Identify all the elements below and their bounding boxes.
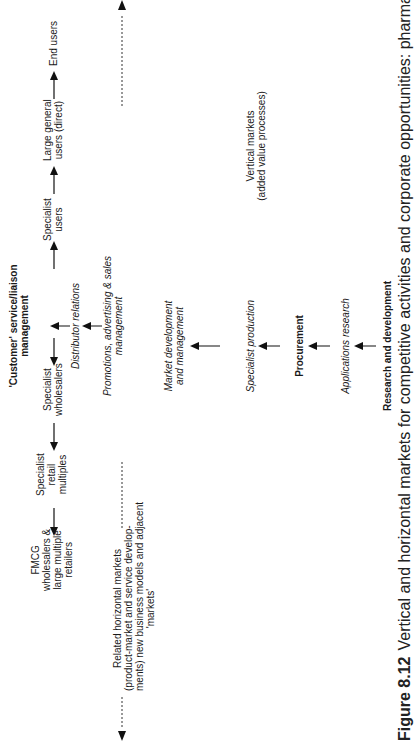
arrow-up-icon	[190, 340, 220, 352]
node-line: users (direct)	[53, 99, 64, 161]
node-line: retail	[46, 453, 57, 496]
node-fmcg-line: wholesalers &	[41, 529, 52, 591]
horizontal-markets-label: Related horizontal markets (product-mark…	[112, 526, 156, 691]
arrow-up-icon	[258, 340, 280, 352]
arrow-up-icon	[82, 320, 102, 332]
specialist-production: Specialist production	[245, 291, 256, 401]
node-line: Specialist	[42, 198, 53, 241]
node-end-users: End users	[48, 21, 59, 66]
arrow-up-icon	[354, 340, 376, 352]
node-fmcg-line: FMCG	[30, 529, 41, 591]
label-line: 'markets'	[145, 526, 156, 691]
arrow-right-icon	[48, 241, 60, 271]
node-large-general-users: Large general users (direct)	[42, 99, 64, 161]
node-line: Specialist	[35, 453, 46, 496]
arrow-right-icon	[48, 166, 60, 196]
figure-caption-text: Vertical and horizontal markets for comp…	[396, 0, 413, 651]
node-line: wholesalers	[53, 363, 64, 416]
procurement: Procurement	[294, 291, 305, 401]
arrow-left-icon	[48, 421, 60, 451]
node-line: Promotions, advertising & sales	[102, 251, 113, 401]
figure-canvas: FMCG wholesalers & large multiple retail…	[0, 0, 420, 741]
arrow-up-icon	[50, 320, 70, 332]
node-customer-service: 'Customer' service/liaison management	[8, 261, 30, 391]
node-line: Market development	[163, 291, 174, 401]
node-line: Large general	[42, 99, 53, 161]
arrow-right-icon	[48, 71, 60, 101]
arrow-left-icon	[48, 506, 60, 536]
arrow-left-icon	[48, 336, 60, 366]
label-line: (added value processes)	[256, 76, 267, 216]
vertical-markets-label: Vertical markets (added value processes)	[245, 76, 267, 216]
node-line: multiples	[57, 453, 68, 496]
distributor-relations: Distributor relations	[70, 276, 81, 376]
node-specialist-users: Specialist users	[42, 198, 64, 241]
node-line: 'Customer' service/liaison	[8, 261, 19, 391]
figure-number: Figure 8.12	[396, 657, 413, 741]
node-specialist-wholesalers: Specialist wholesalers	[42, 363, 64, 416]
node-line: Specialist	[42, 363, 53, 416]
node-fmcg-line: large multiple	[52, 529, 63, 591]
label-line: Related horizontal markets	[112, 526, 123, 691]
node-fmcg: FMCG wholesalers & large multiple retail…	[30, 529, 74, 591]
arrow-up-icon	[308, 340, 330, 352]
node-line: management	[19, 261, 30, 391]
node-fmcg-line: retailers	[63, 529, 74, 591]
research-development: Research and development	[382, 281, 393, 411]
label-line: Vertical markets	[245, 76, 256, 216]
node-line: and management	[174, 291, 185, 401]
node-specialist-retail: Specialist retail multiples	[35, 453, 68, 496]
node-line: users	[53, 198, 64, 241]
label-line: ments) new business models and adjacent	[134, 526, 145, 691]
label-line: (product-market and service develop-	[123, 526, 134, 691]
figure-caption: Figure 8.12Vertical and horizontal marke…	[396, 0, 414, 741]
market-development: Market development and management	[163, 291, 185, 401]
applications-research: Applications research	[340, 291, 351, 401]
